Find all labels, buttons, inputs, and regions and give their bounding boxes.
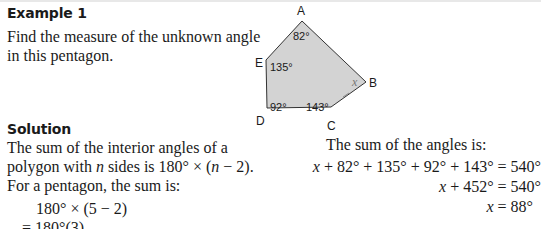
example-prompt-line1: Find the measure of the unknown angle [7, 27, 260, 46]
text: sides is 180° × ( [104, 158, 211, 175]
angle-label-e: 135° [270, 61, 293, 73]
variable-n: n [96, 158, 104, 175]
variable-x: x [486, 198, 493, 215]
vertex-label-c: C [327, 119, 336, 133]
text: − 2). [219, 158, 253, 175]
solution-calc2: = 180°(3) [22, 218, 84, 229]
pentagon-diagram: A B C D E 82° x 143° 92° 135° [240, 0, 380, 135]
solution-line3: For a pentagon, the sum is: [7, 176, 180, 195]
angle-label-d: 92° [270, 101, 287, 113]
solution-calc1: 180° × (5 − 2) [36, 199, 127, 218]
text: = 88° [494, 198, 533, 215]
example-prompt-line2: in this pentagon. [7, 46, 113, 65]
variable-x: x [313, 158, 320, 175]
solution-heading: Solution [7, 121, 71, 137]
angle-label-c: 143° [306, 101, 329, 113]
text: + 82° + 135° + 92° + 143° = 540° [320, 158, 541, 175]
vertex-label-e: E [255, 56, 263, 70]
vertex-label-b: B [369, 76, 377, 90]
example-heading: Example 1 [7, 5, 87, 21]
equation-line2: x + 452° = 540° [439, 177, 541, 196]
vertex-label-d: D [256, 114, 265, 128]
equation-line1: x + 82° + 135° + 92° + 143° = 540° [313, 157, 541, 176]
equation-line3: x = 88° [486, 197, 533, 216]
text: + 452° = 540° [446, 178, 541, 195]
solution-line2: polygon with n sides is 180° × (n − 2). [7, 157, 254, 176]
text: polygon with [7, 158, 96, 175]
angle-label-b: x [351, 75, 358, 89]
angle-label-a: 82° [293, 30, 310, 42]
solution-line1: The sum of the interior angles of a [7, 138, 228, 157]
sum-intro: The sum of the angles is: [326, 135, 486, 154]
vertex-label-a: A [297, 4, 305, 18]
